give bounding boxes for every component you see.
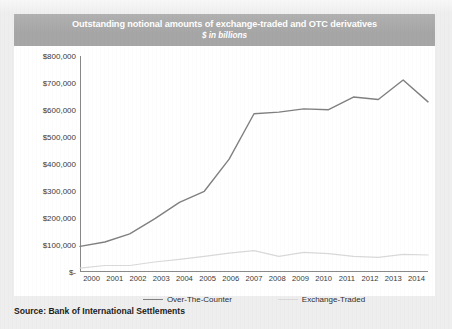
series-lines	[80, 56, 428, 272]
y-axis-tick-label: $400,000	[18, 160, 76, 169]
chart-legend: Over-The-CounterExchange-Traded	[80, 291, 428, 307]
x-axis-tick-label: 2008	[266, 274, 289, 288]
y-axis-tick-label: $700,000	[18, 79, 76, 88]
legend-item[interactable]: Exchange-Traded	[278, 295, 365, 304]
x-axis-tick-label: 2010	[312, 274, 335, 288]
y-axis-tick-label: $100,000	[18, 241, 76, 250]
plot-area: $-$100,000$200,000$300,000$400,000$500,0…	[14, 46, 435, 296]
x-axis-tick-label: 2000	[80, 274, 103, 288]
chart-title: Outstanding notional amounts of exchange…	[72, 18, 377, 30]
x-axis-tick-label: 2013	[382, 274, 405, 288]
chart-card: Outstanding notional amounts of exchange…	[14, 14, 435, 296]
x-axis-tick-label: 2001	[103, 274, 126, 288]
x-axis-labels: 2000200120022003200420052006200720082009…	[80, 274, 428, 288]
y-axis-labels: $-$100,000$200,000$300,000$400,000$500,0…	[18, 46, 76, 296]
y-axis-tick-label: $300,000	[18, 187, 76, 196]
y-axis-tick-label: $800,000	[18, 52, 76, 61]
x-axis-tick-label: 2005	[196, 274, 219, 288]
x-axis-tick-label: 2011	[335, 274, 358, 288]
chart-subtitle: $ in billions	[202, 30, 247, 42]
y-axis-tick-label: $-	[18, 268, 76, 277]
x-axis-tick-label: 2012	[358, 274, 381, 288]
source-note: Source: Bank of International Settlement…	[14, 306, 185, 316]
y-axis-tick-label: $200,000	[18, 214, 76, 223]
x-axis-tick-label: 2002	[126, 274, 149, 288]
chart-title-bar: Outstanding notional amounts of exchange…	[14, 14, 435, 46]
legend-item-label: Exchange-Traded	[302, 295, 365, 304]
x-axis-tick-label: 2003	[150, 274, 173, 288]
line-exchange-traded	[80, 251, 428, 269]
line-over-the-counter	[80, 80, 428, 246]
x-axis-tick-label: 2004	[173, 274, 196, 288]
legend-line-swatch	[143, 299, 163, 300]
legend-item[interactable]: Over-The-Counter	[143, 295, 232, 304]
x-axis-tick-label: 2009	[289, 274, 312, 288]
x-axis-tick-label: 2007	[242, 274, 265, 288]
legend-line-swatch	[278, 299, 298, 300]
y-axis-tick-label: $600,000	[18, 106, 76, 115]
axes-area	[80, 56, 428, 272]
x-axis-tick-label: 2014	[405, 274, 428, 288]
legend-item-label: Over-The-Counter	[167, 295, 232, 304]
y-axis-tick-label: $500,000	[18, 133, 76, 142]
x-axis-tick-label: 2006	[219, 274, 242, 288]
